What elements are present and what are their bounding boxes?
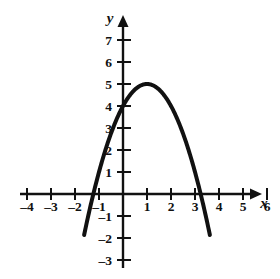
y-axis-arrow-icon bbox=[118, 15, 129, 27]
y-tick-label-1: 1 bbox=[105, 165, 112, 180]
y-tick-label--2: –2 bbox=[98, 231, 113, 246]
x-axis-label: x bbox=[259, 195, 268, 211]
y-tick-label--3: –3 bbox=[98, 253, 113, 268]
x-tick-label-1: 1 bbox=[144, 199, 151, 214]
x-axis-tick-labels: –4 –3 –2 –1 1 2 3 4 5 6 bbox=[19, 199, 270, 214]
x-tick-label-2: 2 bbox=[168, 199, 175, 214]
x-tick-label-3: 3 bbox=[192, 199, 199, 214]
y-tick-label-4: 4 bbox=[105, 99, 112, 114]
x-tick-label-4: 4 bbox=[216, 199, 223, 214]
y-tick-label-6: 6 bbox=[105, 55, 112, 70]
y-axis-label: y bbox=[105, 10, 114, 26]
x-tick-label--4: –4 bbox=[19, 199, 34, 214]
x-tick-label--3: –3 bbox=[43, 199, 58, 214]
x-tick-label--2: –2 bbox=[67, 199, 82, 214]
coordinate-plane: –4 –3 –2 –1 1 2 3 4 5 6 7 6 5 4 3 2 1 –1… bbox=[0, 0, 280, 279]
y-tick-label-5: 5 bbox=[105, 77, 112, 92]
x-tick-label-5: 5 bbox=[240, 199, 247, 214]
y-tick-label--1: –1 bbox=[98, 209, 113, 224]
graph-figure: –4 –3 –2 –1 1 2 3 4 5 6 7 6 5 4 3 2 1 –1… bbox=[0, 0, 280, 279]
y-tick-label-7: 7 bbox=[105, 33, 112, 48]
